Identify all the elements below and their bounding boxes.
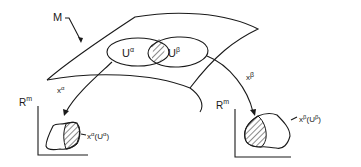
- chart-domains: Uα Uβ: [107, 35, 209, 68]
- arrowhead-icon: [78, 37, 83, 43]
- map-x-alpha: xα: [57, 62, 112, 116]
- axes-alpha: [38, 106, 88, 155]
- image-x-alpha-label: xα(Uα): [87, 131, 109, 141]
- overlap-image-beta-hatched: [245, 116, 267, 147]
- map-x-beta: xβ: [207, 56, 256, 116]
- rm-alpha-label: Rm: [19, 95, 32, 108]
- manifold-chart-diagram: M Uα Uβ xα xβ Rm xα(Uα) Rm xβ(Uβ): [0, 0, 361, 167]
- map-x-alpha-label: xα: [57, 85, 65, 95]
- overlap-image-alpha-hatched: [64, 122, 80, 149]
- arrowhead-icon: [63, 109, 69, 116]
- u-alpha-label: Uα: [122, 46, 134, 59]
- arrowhead-icon: [250, 109, 256, 116]
- manifold-label-group: M: [53, 11, 83, 43]
- image-x-beta-label: xβ(Uβ): [299, 114, 321, 124]
- map-x-beta-label: xβ: [246, 71, 254, 82]
- u-beta-label: Uβ: [168, 46, 180, 59]
- manifold-label: M: [53, 11, 62, 23]
- rm-beta-label: Rm: [216, 98, 229, 111]
- target-space-beta: Rm xβ(Uβ): [216, 98, 321, 157]
- overlap-region-hatched: [152, 39, 165, 63]
- target-space-alpha: Rm xα(Uα): [19, 95, 109, 155]
